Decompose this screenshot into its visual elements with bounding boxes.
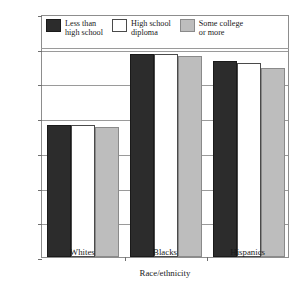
bar: [261, 68, 285, 257]
legend-label: High school diploma: [131, 19, 171, 38]
bar-group: [42, 16, 125, 257]
x-tick-label: Hispanics: [203, 247, 293, 257]
x-tick-label: Whites: [37, 247, 127, 257]
chart-legend: Less than high school High school diplom…: [46, 19, 284, 46]
bar-group: [207, 16, 290, 257]
legend-separator-line: [41, 48, 289, 49]
bar-chart-figure: Percentage underperforming students 0102…: [0, 0, 301, 297]
legend-item-some-college-or-more: Some college or more: [180, 19, 243, 38]
x-axis-title: Race/ethnicity: [41, 268, 289, 278]
bar: [178, 56, 202, 257]
white-swatch-icon: [112, 19, 127, 32]
x-tick-mark: [125, 257, 126, 261]
bar: [237, 63, 261, 257]
bar-group: [125, 16, 208, 257]
bar: [47, 125, 71, 257]
legend-label: Less than high school: [65, 19, 103, 38]
bar: [154, 54, 178, 257]
bar: [95, 127, 119, 257]
legend-item-less-than-high-school: Less than high school: [46, 19, 103, 38]
dark-swatch-icon: [46, 19, 61, 32]
y-tick-mark: [38, 259, 42, 260]
legend-label: Some college or more: [199, 19, 243, 38]
bar: [71, 125, 95, 257]
gray-swatch-icon: [180, 19, 195, 32]
legend-item-high-school-diploma: High school diploma: [112, 19, 171, 38]
bar: [213, 61, 237, 257]
x-tick-label: Blacks: [120, 247, 210, 257]
plot-area: 010203040506070: [41, 15, 289, 258]
bar: [130, 54, 154, 257]
x-tick-mark: [207, 257, 208, 261]
